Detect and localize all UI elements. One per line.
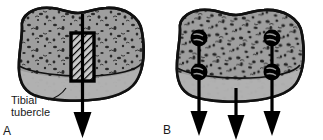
illustration-svg bbox=[0, 0, 323, 140]
panel-a-group bbox=[14, 8, 148, 138]
screw-b-left-lower bbox=[191, 64, 208, 81]
panel-a-letter: A bbox=[3, 125, 11, 137]
panel-b-letter: B bbox=[163, 124, 171, 136]
tibial-tubercle-label-line2: tubercle bbox=[11, 107, 50, 119]
tibial-tubercle-label: Tibial tubercle bbox=[11, 95, 50, 118]
screw-b-right-lower bbox=[264, 64, 281, 81]
screw-b-right-upper bbox=[264, 30, 281, 47]
panel-b-group bbox=[172, 10, 306, 140]
panel-b-bone bbox=[172, 10, 306, 110]
screw-b-left-upper bbox=[191, 30, 208, 47]
figure-canvas: Tibial tubercle A B bbox=[0, 0, 323, 140]
tibial-tubercle-label-line1: Tibial bbox=[11, 95, 50, 107]
